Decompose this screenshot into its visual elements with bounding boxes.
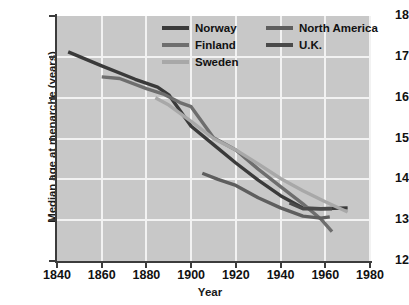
- legend-label: Sweden: [195, 56, 238, 68]
- series-line: [102, 77, 332, 232]
- y-tick-mark: [49, 15, 56, 17]
- y-tick-label: 17: [363, 49, 409, 63]
- legend-item[interactable]: North America: [266, 21, 378, 35]
- y-tick-label: 16: [363, 90, 409, 104]
- x-tick-label: 1960: [300, 268, 350, 282]
- legend-swatch-line-icon: [266, 43, 293, 47]
- y-tick-mark: [49, 178, 56, 180]
- legend-swatch-line-icon: [162, 26, 189, 30]
- legend-label: Norway: [195, 22, 237, 34]
- chart-figure: Median age at menarche (years) Year 1213…: [0, 0, 409, 305]
- legend-swatch-line-icon: [266, 26, 293, 30]
- x-axis-title: Year: [50, 286, 370, 298]
- x-tick-label: 1900: [166, 268, 216, 282]
- chart-legend: NorwayFinlandSwedenNorth AmericaU.K.: [162, 21, 367, 71]
- x-tick-label: 1880: [121, 268, 171, 282]
- legend-label: North America: [299, 22, 378, 34]
- legend-item[interactable]: Finland: [162, 38, 236, 52]
- legend-label: U.K.: [299, 39, 322, 51]
- x-tick-label: 1980: [345, 268, 395, 282]
- y-tick-mark: [49, 138, 56, 140]
- legend-item[interactable]: Sweden: [162, 55, 238, 69]
- legend-item[interactable]: Norway: [162, 21, 237, 35]
- y-tick-mark: [49, 97, 56, 99]
- y-tick-label: 18: [363, 8, 409, 22]
- y-tick-mark: [49, 219, 56, 221]
- x-tick-label: 1860: [77, 268, 127, 282]
- y-tick-label: 14: [363, 171, 409, 185]
- x-tick-label: 1840: [32, 268, 82, 282]
- legend-swatch-line-icon: [162, 60, 189, 64]
- x-tick-label: 1920: [211, 268, 261, 282]
- y-tick-label: 13: [363, 212, 409, 226]
- legend-label: Finland: [195, 39, 236, 51]
- x-tick-label: 1940: [256, 268, 306, 282]
- y-tick-mark: [49, 260, 56, 262]
- legend-swatch-line-icon: [162, 43, 189, 47]
- legend-item[interactable]: U.K.: [266, 38, 322, 52]
- y-tick-label: 15: [363, 131, 409, 145]
- y-tick-mark: [49, 56, 56, 58]
